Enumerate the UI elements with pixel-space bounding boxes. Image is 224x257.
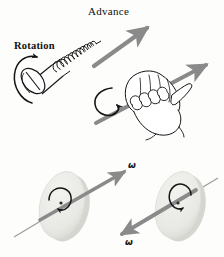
advance-label: Advance xyxy=(88,5,129,17)
omega-right-label: ω xyxy=(125,237,133,247)
right-hand-rule-figure xyxy=(0,0,224,257)
rotation-label: Rotation xyxy=(14,40,55,51)
disk-left-hub xyxy=(59,201,62,204)
omega-left-label: ω xyxy=(128,160,136,170)
disk-right-hub xyxy=(176,201,179,204)
